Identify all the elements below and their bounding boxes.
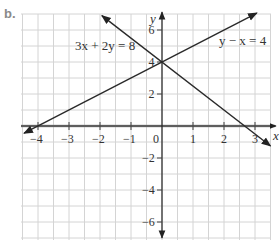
x-tick-label: −4 — [30, 132, 43, 146]
equation-labels: 3x + 2y = 8y − x = 4 — [75, 33, 267, 53]
y-tick-label: 2 — [149, 87, 155, 101]
series-line-2 — [24, 13, 257, 133]
x-axis-label: x — [272, 128, 279, 143]
equation-label-3x-2y-8: 3x + 2y = 8 — [75, 38, 135, 53]
equation-label-y-x-4: y − x = 4 — [219, 33, 267, 48]
x-tick-label: −1 — [123, 132, 136, 146]
y-tick-label: −4 — [142, 183, 155, 197]
y-tick-label: −6 — [142, 215, 155, 229]
x-tick-label: 1 — [190, 132, 196, 146]
coordinate-plane-chart: xy −4−3−2−10123642−2−4−6 3x + 2y = 8y − … — [0, 0, 279, 251]
y-tick-label: −2 — [142, 151, 155, 165]
x-tick-label: 2 — [221, 132, 227, 146]
y-tick-label: 6 — [149, 23, 155, 37]
x-tick-label: 0 — [153, 132, 159, 146]
x-tick-label: −3 — [61, 132, 74, 146]
x-tick-label: −2 — [92, 132, 105, 146]
